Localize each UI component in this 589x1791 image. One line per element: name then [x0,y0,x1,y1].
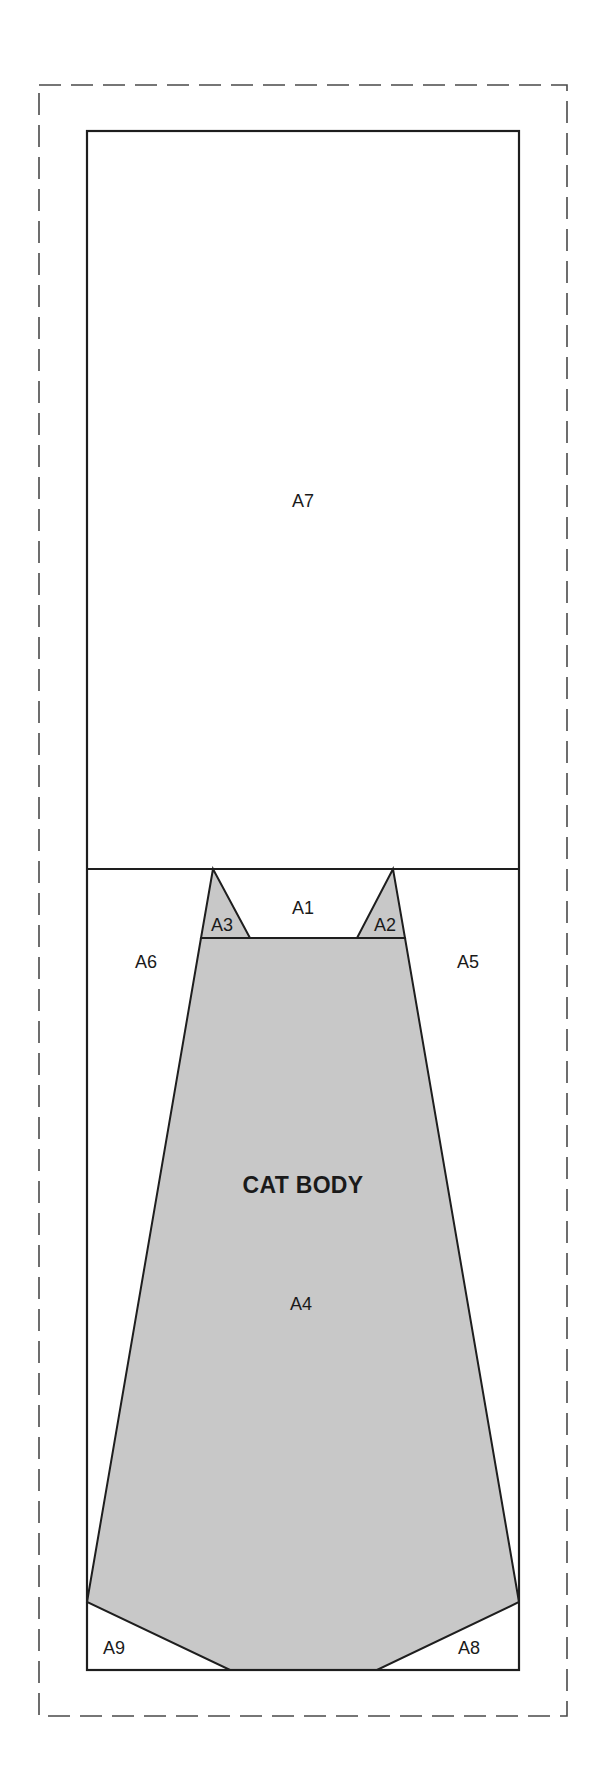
label-a2: A2 [374,915,396,935]
label-a8: A8 [458,1638,480,1658]
cat-body-title: CAT BODY [243,1172,364,1198]
label-a5: A5 [457,952,479,972]
label-a4: A4 [290,1294,312,1314]
label-a6: A6 [135,952,157,972]
label-a9: A9 [103,1638,125,1658]
label-a1: A1 [292,898,314,918]
label-a3: A3 [211,915,233,935]
cat-body-pattern-diagram: CAT BODY A1 A2 A3 A4 A5 A6 A7 A8 A9 [0,0,589,1791]
label-a7: A7 [292,491,314,511]
